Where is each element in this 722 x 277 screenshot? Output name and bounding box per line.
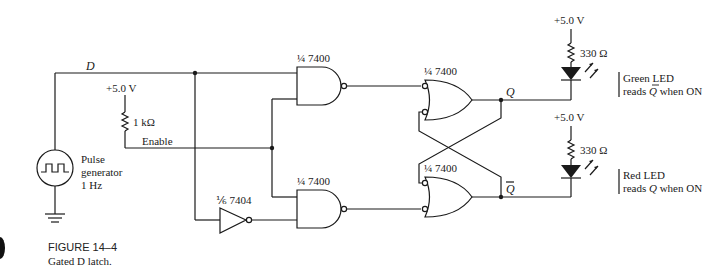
d-wire — [55, 71, 297, 220]
red-led-reads: reads — [623, 182, 649, 194]
inverter-label: ⅙ 7404 — [216, 194, 252, 206]
nand-top-label: ¼ 7400 — [297, 52, 331, 64]
svg-text:reads Q when ON: reads Q when ON — [623, 182, 702, 194]
qbar-output-label: Q — [506, 182, 515, 196]
or-bottom-label: ¼ 7400 — [424, 162, 458, 174]
page-edge-mark — [0, 237, 5, 259]
pulse-gen-label-3: 1 Hz — [81, 179, 102, 191]
pulse-gen-label-1: Pulse — [81, 153, 105, 165]
red-led-var: Q — [649, 182, 657, 194]
red-led-note: Red LED reads Q when ON — [619, 169, 702, 194]
supply-left-label: +5.0 V — [106, 82, 137, 94]
red-led-icon — [561, 160, 598, 197]
q-output-label: Q — [506, 85, 515, 99]
or-top-label: ¼ 7400 — [424, 65, 458, 77]
enable-label: Enable — [142, 135, 173, 147]
green-led-title: Green LED — [623, 72, 674, 84]
green-led-reads: reads — [623, 85, 649, 97]
neg-or-gate-top — [422, 80, 571, 120]
pulse-gen-label-2: generator — [81, 166, 123, 178]
green-led-icon — [561, 63, 598, 100]
nand-gate-bottom — [297, 190, 421, 228]
enable-wire — [125, 99, 297, 197]
pullup-resistor — [122, 95, 128, 148]
led-resistor-top-label: 330 Ω — [580, 47, 607, 59]
green-led-suffix: when ON — [657, 85, 702, 97]
figure-number: FIGURE 14–4 — [48, 241, 117, 253]
nand-gate-top — [297, 67, 421, 105]
red-led-suffix: when ON — [657, 182, 702, 194]
led-resistor-top — [568, 29, 574, 67]
svg-text:Q: Q — [506, 182, 515, 196]
neg-or-gate-bottom — [422, 177, 571, 217]
inverter-gate — [220, 208, 297, 233]
red-led-title: Red LED — [623, 169, 665, 181]
ground-icon — [45, 214, 65, 222]
svg-text:reads Q when ON: reads Q when ON — [623, 85, 702, 97]
nand-bottom-label: ¼ 7400 — [297, 175, 331, 187]
led-resistor-bottom — [568, 126, 574, 165]
pulse-generator — [37, 73, 73, 214]
d-input-label: D — [85, 59, 95, 73]
supply-bottom-label: +5.0 V — [554, 111, 585, 123]
green-led-note: Green LED reads Q when ON — [619, 72, 702, 97]
gated-d-latch-schematic: Pulse generator 1 Hz D +5.0 V 1 kΩ Enabl… — [0, 0, 722, 277]
green-led-var: Q — [649, 85, 657, 97]
supply-top-label: +5.0 V — [554, 14, 585, 26]
figure-caption: Gated D latch. — [48, 255, 112, 267]
pullup-resistor-label: 1 kΩ — [133, 116, 155, 128]
led-resistor-bottom-label: 330 Ω — [580, 144, 607, 156]
